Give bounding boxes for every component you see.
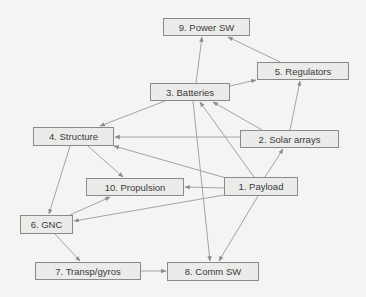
node-label: 2. Solar arrays bbox=[259, 134, 321, 145]
edge-arrow bbox=[265, 149, 283, 177]
node-label: 7. Transp/gyros bbox=[55, 266, 120, 277]
node-box: 5. Regulators bbox=[257, 62, 349, 80]
node-label: 3. Batteries bbox=[166, 87, 214, 98]
edge-arrow bbox=[70, 197, 110, 215]
node-box: 4. Structure bbox=[33, 127, 114, 146]
node-box: 7. Transp/gyros bbox=[35, 262, 141, 280]
node-box: 9. Power SW bbox=[163, 18, 250, 36]
edge-arrow bbox=[114, 146, 226, 178]
edge-arrow bbox=[100, 101, 165, 126]
edge-arrow bbox=[74, 195, 224, 221]
edge-arrow bbox=[230, 80, 256, 86]
node-box: 3. Batteries bbox=[150, 83, 230, 101]
edge-arrow bbox=[228, 37, 280, 62]
node-label: 6. GNC bbox=[31, 219, 63, 230]
edge-arrow bbox=[185, 187, 224, 188]
edge-arrow bbox=[196, 37, 202, 83]
node-box: 2. Solar arrays bbox=[240, 130, 339, 148]
edge-arrow bbox=[219, 196, 258, 261]
node-label: 4. Structure bbox=[49, 131, 98, 142]
node-box: 1. Payload bbox=[224, 177, 298, 196]
node-label: 8. Comm SW bbox=[185, 266, 241, 277]
node-box: 8. Comm SW bbox=[167, 262, 259, 281]
edge-arrow bbox=[193, 101, 210, 261]
node-label: 9. Power SW bbox=[179, 22, 234, 33]
edge-arrow bbox=[49, 146, 70, 214]
edge-arrow bbox=[55, 234, 80, 261]
node-box: 10. Propulsion bbox=[86, 178, 184, 196]
edge-arrow bbox=[88, 146, 123, 177]
node-label: 1. Payload bbox=[239, 181, 284, 192]
edge-arrow bbox=[213, 102, 262, 130]
edges-layer bbox=[0, 0, 366, 297]
node-box: 6. GNC bbox=[20, 215, 73, 234]
edge-arrow bbox=[290, 81, 300, 130]
node-label: 10. Propulsion bbox=[105, 182, 166, 193]
node-label: 5. Regulators bbox=[275, 66, 332, 77]
